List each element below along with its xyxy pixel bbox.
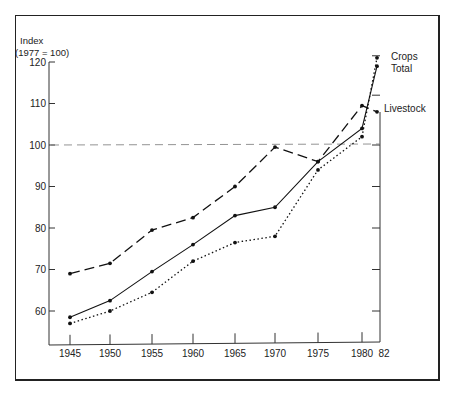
series-crops [70, 58, 377, 324]
y-tick-label: 70 [35, 264, 47, 275]
data-point-livestock [108, 261, 112, 265]
data-point-total [150, 270, 154, 274]
data-point-total [360, 126, 364, 130]
y-tick-label: 90 [35, 181, 47, 192]
label-total: Total [391, 63, 412, 74]
data-point-livestock [273, 145, 277, 149]
data-point-livestock [68, 272, 72, 276]
x-tick-label: 1945 [59, 348, 82, 359]
y-axis-title: Index [20, 35, 43, 46]
data-point-livestock [316, 160, 320, 164]
data-point-total [375, 64, 379, 68]
data-point-total [273, 205, 277, 209]
data-point-total [108, 299, 112, 303]
y-tick-label: 60 [35, 306, 47, 317]
reference-line-100 [51, 144, 380, 145]
data-point-livestock [360, 104, 364, 108]
data-point-total [191, 243, 195, 247]
data-point-crops [233, 241, 237, 245]
data-point-crops [360, 135, 364, 139]
y-tick-label: 80 [35, 223, 47, 234]
data-point-total [233, 214, 237, 218]
data-point-livestock [191, 216, 195, 220]
label-crops: Crops [391, 51, 418, 62]
x-axis [49, 342, 380, 345]
data-point-crops [150, 290, 154, 294]
series-total [70, 66, 377, 317]
x-tick-label: 1950 [99, 348, 122, 359]
data-point-crops [316, 168, 320, 172]
x-tick-label: 1970 [264, 348, 287, 359]
y-tick-label: 100 [29, 140, 46, 151]
data-point-crops [375, 56, 379, 60]
y-tick-label: 110 [30, 98, 46, 109]
x-tick-label: 1975 [307, 348, 330, 359]
x-tick-label: 1980 [351, 348, 374, 359]
data-point-crops [191, 259, 195, 263]
series-livestock [70, 106, 377, 274]
data-point-crops [273, 234, 277, 238]
line-chart: 60708090100110120Index(1977 = 100)194519… [0, 0, 453, 396]
x-tick-label: 82 [378, 348, 390, 359]
x-tick-label: 1960 [182, 348, 205, 359]
x-tick-label: 1955 [141, 348, 164, 359]
label-livestock: Livestock [384, 103, 427, 114]
y-tick-label: 120 [29, 57, 46, 68]
y-axis-subtitle: (1977 = 100) [15, 47, 69, 58]
data-point-crops [108, 309, 112, 313]
data-point-livestock [375, 110, 379, 114]
data-point-livestock [233, 185, 237, 189]
data-point-livestock [150, 228, 154, 232]
x-tick-label: 1965 [224, 348, 247, 359]
data-point-crops [68, 322, 72, 326]
data-point-total [68, 315, 72, 319]
